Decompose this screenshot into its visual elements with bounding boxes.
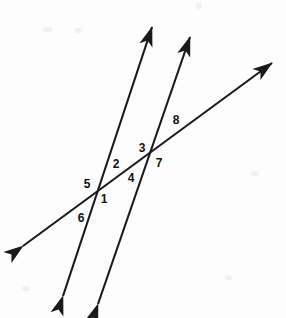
angle-label-7: 7 — [156, 157, 163, 169]
diagram-canvas — [0, 0, 286, 318]
angle-label-2: 2 — [113, 158, 120, 170]
transversal-line — [23, 63, 272, 246]
angle-label-4: 4 — [128, 172, 135, 184]
angle-label-1: 1 — [101, 193, 108, 205]
angle-label-8: 8 — [173, 114, 180, 126]
angle-diagram-figure: 1 2 3 4 5 6 7 8 — [0, 0, 286, 318]
angle-label-5: 5 — [84, 178, 91, 190]
lines-group — [23, 27, 272, 304]
angle-label-6: 6 — [78, 212, 85, 224]
angle-label-3: 3 — [139, 142, 146, 154]
